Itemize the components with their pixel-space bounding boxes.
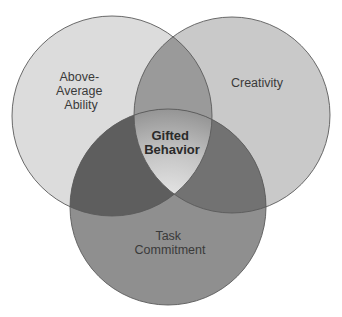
label-ability-line-2: Average (56, 84, 102, 98)
label-ability-line-1: Above- (59, 70, 99, 84)
label-task-line-1: Task (155, 229, 181, 243)
label-gifted-line-2: Behavior (144, 142, 200, 157)
venn-diagram: Above- Average Ability Creativity Task C… (0, 0, 342, 317)
label-creativity-line-1: Creativity (231, 76, 284, 90)
label-gifted-behavior: Gifted Behavior (144, 128, 200, 157)
label-ability-line-3: Ability (64, 98, 98, 112)
label-creativity: Creativity (231, 76, 284, 90)
label-gifted-line-1: Gifted (151, 128, 189, 143)
label-task-line-2: Commitment (135, 243, 206, 257)
